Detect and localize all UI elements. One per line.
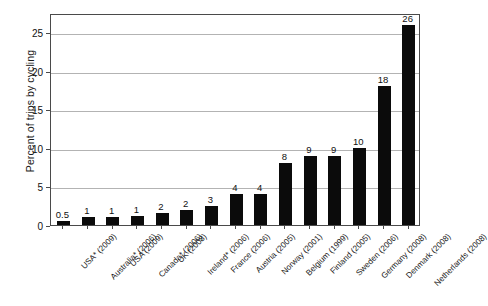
plot-area: [50, 14, 420, 226]
x-tick-mark: [87, 226, 88, 229]
bar: [328, 156, 341, 225]
y-tick-label: 15: [0, 105, 50, 116]
bar-value-label: 2: [158, 201, 163, 212]
bar: [205, 206, 218, 225]
bar-value-label: 1: [84, 205, 89, 216]
bar-value-label: 8: [282, 151, 287, 162]
bar: [57, 221, 70, 225]
y-tick-mark: [46, 33, 50, 34]
bar-value-label: 2: [183, 198, 188, 209]
y-tick-label: 20: [0, 66, 50, 77]
bar: [353, 148, 366, 225]
bar: [180, 210, 193, 225]
y-tick-mark: [46, 110, 50, 111]
x-tick-mark: [284, 226, 285, 229]
bar-value-label: 26: [402, 13, 413, 24]
bar: [378, 86, 391, 225]
y-tick-mark: [46, 72, 50, 73]
y-tick-label: 25: [0, 28, 50, 39]
gridline: [51, 73, 419, 74]
bar-value-label: 3: [208, 194, 213, 205]
x-tick-mark: [408, 226, 409, 229]
x-tick-mark: [112, 226, 113, 229]
gridline: [51, 111, 419, 112]
bar-value-label: 10: [353, 136, 364, 147]
bar: [254, 194, 267, 225]
x-tick-mark: [309, 226, 310, 229]
bar: [131, 216, 144, 225]
y-tick-mark: [46, 149, 50, 150]
bar-value-label: 4: [257, 182, 262, 193]
x-tick-mark: [334, 226, 335, 229]
bar: [304, 156, 317, 225]
x-tick-mark: [136, 226, 137, 229]
x-tick-mark: [186, 226, 187, 229]
bar-value-label: 0.5: [56, 209, 69, 220]
x-tick-mark: [161, 226, 162, 229]
bar: [402, 25, 415, 225]
x-tick-mark: [210, 226, 211, 229]
y-tick-mark: [46, 226, 50, 227]
bar-value-label: 9: [306, 144, 311, 155]
y-tick-label: 0: [0, 221, 50, 232]
bar-value-label: 1: [109, 205, 114, 216]
bar: [106, 217, 119, 225]
x-tick-mark: [383, 226, 384, 229]
x-tick-mark: [358, 226, 359, 229]
y-tick-label: 5: [0, 182, 50, 193]
bar-value-label: 4: [232, 182, 237, 193]
bar-value-label: 9: [331, 144, 336, 155]
x-tick-mark: [260, 226, 261, 229]
bar: [156, 213, 169, 225]
bar: [82, 217, 95, 225]
y-tick-mark: [46, 187, 50, 188]
bar-value-label: 1: [134, 204, 139, 215]
bar: [230, 194, 243, 225]
x-axis-category-label: USA* (2009): [80, 232, 119, 271]
y-tick-label: 10: [0, 143, 50, 154]
bar: [279, 163, 292, 225]
x-tick-mark: [62, 226, 63, 229]
bar-value-label: 18: [378, 74, 389, 85]
gridline: [51, 34, 419, 35]
x-tick-mark: [235, 226, 236, 229]
